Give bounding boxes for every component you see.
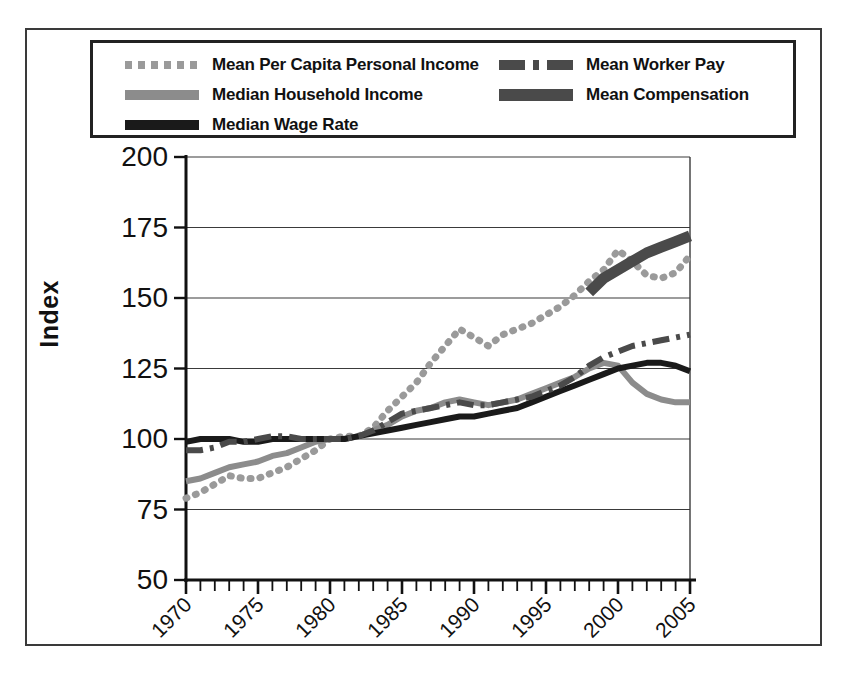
x-tick-label: 2000 bbox=[579, 593, 628, 642]
y-tick-label: 50 bbox=[137, 564, 168, 595]
x-tick-label: 1995 bbox=[507, 593, 556, 642]
x-tick-label: 1980 bbox=[291, 593, 340, 642]
y-tick-label: 200 bbox=[121, 141, 168, 172]
tick-marks bbox=[174, 157, 690, 594]
x-tick-label: 2005 bbox=[651, 593, 700, 642]
x-tick-label: 1975 bbox=[219, 593, 268, 642]
x-tick-label: 1985 bbox=[363, 593, 412, 642]
data-series bbox=[186, 236, 690, 498]
chart-plot-area: 5075100125150175200 19701975198019851990… bbox=[27, 30, 824, 648]
series-line-mean-worker-pay bbox=[186, 335, 690, 451]
y-tick-label: 100 bbox=[121, 423, 168, 454]
y-tick-labels: 5075100125150175200 bbox=[121, 141, 168, 595]
y-tick-label: 125 bbox=[121, 353, 168, 384]
x-tick-label: 1990 bbox=[435, 593, 484, 642]
figure-frame: Mean Per Capita Personal Income Mean Wor… bbox=[25, 28, 822, 646]
x-tick-labels: 19701975198019851990199520002005 bbox=[147, 593, 700, 642]
x-tick-label: 1970 bbox=[147, 593, 196, 642]
y-tick-label: 75 bbox=[137, 494, 168, 525]
y-tick-label: 175 bbox=[121, 212, 168, 243]
y-tick-label: 150 bbox=[121, 282, 168, 313]
